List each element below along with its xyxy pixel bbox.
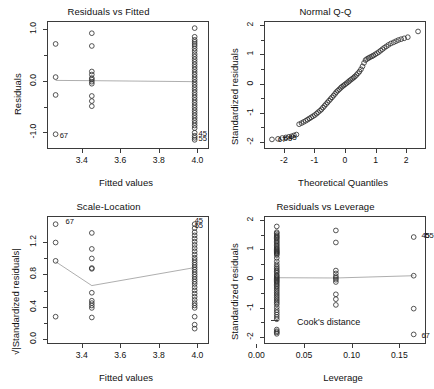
data-point <box>399 37 404 42</box>
x-axis-label: Theoretical Quantiles <box>217 177 434 188</box>
data-point <box>274 305 279 310</box>
y-tick-label: 0 <box>245 270 255 286</box>
data-point <box>53 258 58 263</box>
x-tick <box>345 149 346 153</box>
y-tick <box>43 307 47 308</box>
point-label: 45 <box>288 133 296 142</box>
data-point <box>416 29 421 34</box>
data-point <box>53 42 58 47</box>
y-minor-tick <box>261 322 264 323</box>
y-tick <box>260 54 264 55</box>
y-minor-tick <box>261 127 264 128</box>
y-axis-label: √|Standardized residuals| <box>10 248 21 355</box>
x-axis-label: Fitted values <box>0 372 217 383</box>
x-tick-label: 0.15 <box>391 350 408 360</box>
data-point <box>334 297 339 302</box>
point-label: 67 <box>65 217 73 226</box>
x-tick-label: 3.8 <box>153 350 165 360</box>
x-tick <box>314 149 315 153</box>
y-tick <box>43 242 47 243</box>
data-point <box>274 224 279 229</box>
y-axis-label: Standardized residuals <box>229 48 240 145</box>
y-tick-label: 1 <box>245 45 255 61</box>
figure-canvas: Residuals vs Fitted Residuals 6755453.43… <box>0 0 434 389</box>
plot-area <box>47 21 209 149</box>
y-minor-tick <box>261 40 264 41</box>
data-point <box>334 292 339 297</box>
data-point <box>89 94 94 99</box>
point-label: 67 <box>421 331 429 340</box>
y-tick-label: 2 <box>245 16 255 32</box>
data-point <box>334 271 339 276</box>
y-tick-label: 1.0 <box>28 20 38 36</box>
cooks-distance-dash <box>271 320 278 321</box>
y-minor-tick <box>44 258 47 259</box>
y-tick <box>260 113 264 114</box>
y-minor-tick <box>44 323 47 324</box>
point-label: 45 <box>199 129 207 138</box>
y-minor-tick <box>261 98 264 99</box>
x-tick <box>376 149 377 153</box>
data-point <box>53 314 58 319</box>
x-tick-label: 3.6 <box>114 350 126 360</box>
x-axis-label: Fitted values <box>0 177 217 188</box>
cooks-distance-legend: Cook's distance <box>297 317 360 327</box>
y-axis-label: Residuals <box>12 73 23 115</box>
x-axis-label: Leverage <box>217 372 434 383</box>
y-tick-label: -1.0 <box>28 123 38 139</box>
x-tick <box>120 149 121 153</box>
x-tick <box>406 149 407 153</box>
x-tick-label: 2 <box>404 155 409 165</box>
data-point <box>89 99 94 104</box>
y-tick-label: 1 <box>245 240 255 256</box>
x-tick <box>352 344 353 348</box>
data-point <box>274 259 279 264</box>
y-tick <box>43 274 47 275</box>
x-tick-label: 4.0 <box>191 155 203 165</box>
y-minor-tick <box>44 55 47 56</box>
y-tick <box>43 132 47 133</box>
x-tick-label: 3.4 <box>76 350 88 360</box>
y-tick-label: 2 <box>245 211 255 227</box>
data-point <box>192 26 197 31</box>
y-minor-tick <box>261 293 264 294</box>
data-point <box>53 75 58 80</box>
data-point <box>89 247 94 252</box>
data-layer <box>48 22 208 148</box>
x-tick-label: 4.0 <box>191 350 203 360</box>
y-minor-tick <box>44 107 47 108</box>
reference-line <box>56 80 197 81</box>
reference-line <box>276 276 413 278</box>
y-tick <box>260 84 264 85</box>
y-tick <box>260 308 264 309</box>
y-tick-label: 0 <box>245 75 255 91</box>
x-tick <box>284 149 285 153</box>
data-point <box>411 332 416 337</box>
x-tick-label: 3.8 <box>153 155 165 165</box>
panel-title: Residuals vs Fitted <box>0 6 217 17</box>
data-point <box>335 88 340 93</box>
y-tick-label: -2 <box>245 133 255 149</box>
data-point <box>411 235 416 240</box>
panel-residuals-vs-fitted: Residuals vs Fitted Residuals 6755453.43… <box>0 0 217 194</box>
y-tick-label: 1.2 <box>28 233 38 249</box>
y-minor-tick <box>261 69 264 70</box>
data-point <box>334 303 339 308</box>
data-point <box>89 104 94 109</box>
y-tick <box>260 337 264 338</box>
data-point <box>89 256 94 261</box>
data-point <box>53 132 58 137</box>
y-tick <box>43 29 47 30</box>
data-point <box>53 240 58 245</box>
y-tick <box>260 25 264 26</box>
x-tick <box>197 344 198 348</box>
y-tick <box>260 220 264 221</box>
y-tick <box>43 339 47 340</box>
y-tick-label: 0.4 <box>28 298 38 314</box>
y-tick-label: 0.0 <box>28 330 38 346</box>
data-layer <box>48 217 208 343</box>
x-tick-label: -2 <box>280 155 288 165</box>
data-point <box>89 44 94 49</box>
data-point <box>192 314 197 319</box>
plot-area <box>264 21 426 149</box>
